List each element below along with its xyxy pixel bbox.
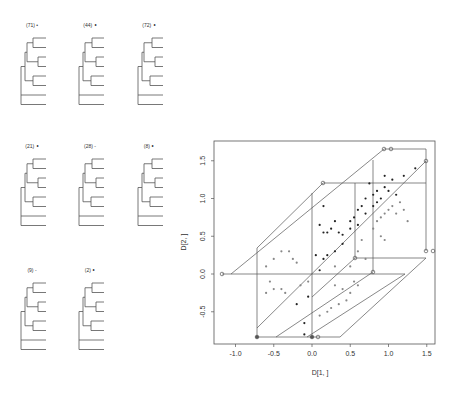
y-tick-label: 1.0 bbox=[199, 194, 206, 204]
dendrogram-panel bbox=[21, 38, 163, 350]
data-point bbox=[349, 292, 351, 294]
projection-lines bbox=[222, 149, 426, 337]
data-point bbox=[380, 235, 382, 237]
data-point bbox=[403, 175, 405, 177]
data-point bbox=[342, 288, 344, 290]
dendrogram-label: (9) - bbox=[27, 267, 37, 273]
dendrogram bbox=[79, 283, 104, 350]
data-point bbox=[384, 239, 386, 241]
dendrogram bbox=[21, 38, 46, 105]
vertex-markers bbox=[220, 147, 435, 339]
data-point bbox=[384, 186, 386, 188]
data-point bbox=[338, 231, 340, 233]
data-point bbox=[299, 284, 301, 286]
data-point bbox=[364, 213, 366, 215]
data-point bbox=[319, 314, 321, 316]
data-point bbox=[387, 209, 389, 211]
data-point bbox=[399, 201, 401, 203]
data-point bbox=[368, 182, 370, 184]
x-tick-label: 1.0 bbox=[384, 350, 394, 357]
data-point bbox=[303, 333, 305, 335]
data-point bbox=[265, 292, 267, 294]
data-point bbox=[384, 213, 386, 215]
dendrogram-label: (8) ∘ bbox=[144, 143, 155, 149]
data-point bbox=[349, 220, 351, 222]
data-point bbox=[326, 231, 328, 233]
data-point bbox=[322, 258, 324, 260]
data-point bbox=[361, 205, 363, 207]
data-point bbox=[357, 224, 359, 226]
data-point bbox=[395, 194, 397, 196]
data-point bbox=[387, 190, 389, 192]
dendrogram bbox=[79, 38, 104, 105]
data-point bbox=[330, 228, 332, 230]
y-tick-label: -0.5 bbox=[199, 306, 206, 318]
data-point bbox=[330, 307, 332, 309]
data-point bbox=[334, 250, 336, 252]
data-point bbox=[353, 280, 355, 282]
data-point bbox=[292, 258, 294, 260]
dendrogram-label: (71) • bbox=[26, 22, 38, 28]
data-point bbox=[326, 254, 328, 256]
dendrogram bbox=[138, 159, 163, 226]
data-points bbox=[265, 167, 416, 335]
data-point bbox=[303, 322, 305, 324]
data-point bbox=[319, 224, 321, 226]
dendrogram bbox=[21, 159, 46, 226]
data-point bbox=[349, 228, 351, 230]
figure: (71) •(44) ∘(72) ∘(21) ∘(28) -(8) ∘(9) -… bbox=[0, 0, 456, 394]
dendrogram-label: (72) ∘ bbox=[142, 22, 155, 28]
dendrogram bbox=[138, 38, 163, 105]
data-point bbox=[357, 250, 359, 252]
data-point bbox=[338, 303, 340, 305]
data-point bbox=[342, 243, 344, 245]
dendrogram-labels: (71) •(44) ∘(72) ∘(21) ∘(28) -(8) ∘(9) -… bbox=[25, 22, 155, 273]
data-point bbox=[315, 254, 317, 256]
axis-ticks: -1.0-0.50.00.51.01.5-0.50.00.51.01.5 bbox=[199, 156, 432, 357]
data-point bbox=[296, 303, 298, 305]
data-point bbox=[395, 213, 397, 215]
data-point bbox=[322, 205, 324, 207]
data-point bbox=[376, 190, 378, 192]
data-point bbox=[326, 311, 328, 313]
data-point bbox=[391, 179, 393, 181]
data-point bbox=[334, 284, 336, 286]
data-point bbox=[273, 258, 275, 260]
data-point bbox=[307, 280, 309, 282]
data-point bbox=[269, 280, 271, 282]
plot-frame bbox=[214, 141, 435, 344]
data-point bbox=[372, 228, 374, 230]
x-tick-label: -1.0 bbox=[229, 350, 241, 357]
y-axis-label: D[2, ] bbox=[180, 234, 188, 251]
data-point bbox=[345, 299, 347, 301]
data-point bbox=[357, 284, 359, 286]
x-tick-label: 1.5 bbox=[422, 350, 432, 357]
data-point bbox=[364, 258, 366, 260]
data-point bbox=[280, 250, 282, 252]
data-point bbox=[307, 296, 309, 298]
data-point bbox=[361, 239, 363, 241]
x-tick-label: 0.0 bbox=[307, 350, 317, 357]
data-point bbox=[384, 175, 386, 177]
y-tick-label: 1.5 bbox=[199, 156, 206, 166]
data-point bbox=[391, 205, 393, 207]
data-point bbox=[353, 216, 355, 218]
scatter-plot: -1.0-0.50.00.51.01.5-0.50.00.51.01.5 D[1… bbox=[180, 141, 435, 377]
data-point bbox=[334, 220, 336, 222]
data-point bbox=[372, 194, 374, 196]
x-tick-label: 0.5 bbox=[345, 350, 355, 357]
data-point bbox=[296, 262, 298, 264]
dendrogram-label: (21) ∘ bbox=[25, 143, 38, 149]
data-point bbox=[322, 231, 324, 233]
y-tick-label: 0.5 bbox=[199, 231, 206, 241]
x-tick-label: -0.5 bbox=[268, 350, 280, 357]
dendrogram-label: (28) - bbox=[84, 143, 96, 149]
data-point bbox=[334, 265, 336, 267]
dendrogram bbox=[79, 159, 104, 226]
x-axis-label: D[1, ] bbox=[312, 369, 329, 377]
data-point bbox=[357, 209, 359, 211]
data-point bbox=[380, 216, 382, 218]
data-point bbox=[273, 288, 275, 290]
data-point bbox=[319, 269, 321, 271]
dendrogram bbox=[21, 283, 46, 350]
